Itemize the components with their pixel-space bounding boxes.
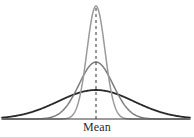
mean-axis-label: Mean: [0, 120, 194, 134]
distribution-chart-svg: [0, 0, 194, 138]
normal-distribution-figure: Mean: [0, 0, 194, 138]
bottom-edge-divider: [0, 137, 194, 138]
